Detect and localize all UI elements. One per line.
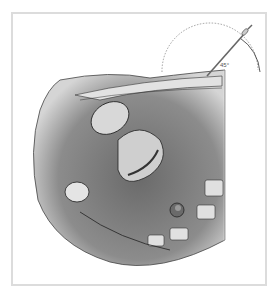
pelvic-cross-section-illustration [0, 0, 275, 294]
needle-icon [207, 25, 252, 76]
pubic-symphysis [65, 182, 89, 202]
angle-label: 45° [220, 62, 229, 68]
